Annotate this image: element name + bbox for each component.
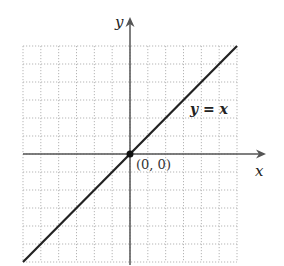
line-label: y = x <box>189 101 229 117</box>
chart-labels: y x y = x (0, 0) <box>114 13 264 180</box>
x-axis-label: x <box>255 162 264 180</box>
origin-point <box>127 151 134 158</box>
origin-label: (0, 0) <box>136 157 171 172</box>
chart-svg: y x y = x (0, 0) <box>0 0 284 266</box>
y-axis-label: y <box>114 13 124 31</box>
chart-figure: y x y = x (0, 0) <box>0 0 284 266</box>
